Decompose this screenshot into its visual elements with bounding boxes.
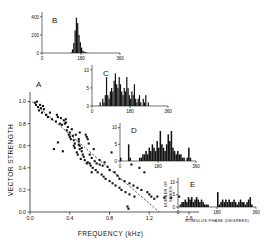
panel-a-data-point [91, 157, 93, 159]
panel-e-bar [191, 197, 193, 207]
panel-a-data-point [34, 102, 36, 104]
panel-c-x-ticklabel: 360 [164, 109, 172, 114]
panel-d-bar [130, 158, 132, 161]
panel-d-bar [166, 144, 168, 161]
panel-a-data-point [150, 196, 152, 198]
panel-a-data-point [91, 171, 93, 173]
panel-b-bar [72, 49, 73, 53]
panel-a-data-point [89, 162, 91, 164]
panel-a-data-point [56, 114, 58, 116]
panel-c-label: C [103, 69, 109, 78]
panel-a-data-point [104, 161, 106, 163]
panel-c-bar [133, 95, 134, 106]
panel-a-data-point [109, 169, 111, 171]
panel-a-data-point [57, 141, 59, 143]
panel-a-data-point [95, 169, 97, 171]
panel-a-data-point [61, 124, 63, 126]
panel-a-data-point [103, 176, 105, 178]
panel-d-bar [175, 154, 177, 161]
panel-e-bar [194, 200, 196, 207]
panel-e-bar [241, 202, 243, 207]
panel-c-bar [126, 77, 127, 106]
panel-d-bar [182, 158, 184, 161]
panel-a-data-point [79, 131, 81, 133]
panel-a-data-point [138, 167, 140, 169]
panel-a-data-point [65, 122, 67, 124]
panel-a-data-point [40, 107, 42, 109]
panel-a-data-point [133, 196, 135, 198]
panel-a-data-point [116, 175, 118, 177]
panel-a-x-ticklabel: 0.4 [66, 215, 73, 221]
panel-c-bar [129, 95, 130, 106]
panel-a-data-point [78, 138, 80, 140]
panel-a-data-point [107, 166, 109, 168]
panel-d-bar [142, 154, 144, 161]
panel-c-bar [110, 92, 111, 106]
panel-a-data-point [101, 173, 103, 175]
panel-a-data-point [136, 187, 138, 189]
panel-a-data-point [66, 129, 68, 131]
panel-c-bar [114, 81, 115, 106]
panel-a-data-point [178, 196, 180, 198]
panel-c-bar [111, 88, 112, 106]
panel-d-bar [155, 151, 157, 161]
panel-a-data-point [83, 156, 85, 158]
panel-a-data-point [79, 145, 81, 147]
panel-e-bar [246, 202, 248, 207]
panel-a-data-point [55, 120, 57, 122]
panel-c-x-ticklabel: 180 [126, 109, 134, 114]
panel-a-data-point [120, 189, 122, 191]
panel-e-bar [188, 197, 190, 207]
panel-d-x-ticklabel: 180 [154, 164, 162, 169]
panel-e-bar [225, 200, 227, 207]
panel-c-bar [139, 95, 140, 106]
panel-a-data-point [43, 108, 45, 110]
panel-d-x-ticklabel: 0 [119, 164, 122, 169]
panel-a-data-point [79, 148, 81, 150]
panel-e-bar [189, 200, 191, 207]
panel-d-bar [144, 154, 146, 161]
panel-e-bar [204, 205, 206, 207]
panel-c-bar [119, 77, 120, 106]
panel-c-bar [106, 77, 107, 106]
panel-a-data-point [124, 191, 126, 193]
panel-d-bar [168, 134, 170, 161]
panel-a-data-point [140, 189, 142, 191]
panel-c-bar [131, 92, 132, 106]
panel-e-bar [193, 202, 195, 207]
panel-a-data-point [89, 154, 91, 156]
panel-d-bar [141, 158, 143, 161]
panel-e-bar [222, 200, 224, 207]
panel-a-data-point [114, 184, 116, 186]
panel-c-y-ticklabel: 5 [86, 86, 89, 91]
panel-e-bar [183, 202, 185, 207]
panel-d-label: D [131, 126, 137, 135]
panel-a-data-point [51, 118, 53, 120]
panel-e-bar [181, 202, 183, 207]
panel-c-bar [136, 102, 137, 106]
panel-b-label: B [52, 16, 57, 25]
panel-d-bar [147, 154, 149, 161]
panel-a-data-point [109, 180, 111, 182]
panel-b-bar [77, 23, 78, 53]
panel-d-bar [158, 148, 160, 161]
panel-a-data-point [78, 140, 80, 142]
panel-d-y-ticklabel: 10 [112, 125, 118, 130]
panel-a-data-point [130, 163, 132, 165]
panel-e-y-ticklabel: 0 [172, 205, 175, 210]
panel-e-y-axis-label-2: SPIKES [168, 186, 173, 202]
panel-a-data-point [73, 139, 75, 141]
panel-e-bar [220, 202, 222, 207]
panel-b-x-ticklabel: 360 [116, 56, 124, 61]
panel-c-bar [148, 102, 149, 106]
panel-c-bar [144, 102, 145, 106]
panel-a-data-point [81, 150, 83, 152]
panel-a-data-point [74, 147, 76, 149]
panel-a-data-point [105, 178, 107, 180]
panel-e-y-ticklabel: 10 [170, 180, 176, 185]
panel-a-data-point [62, 150, 64, 152]
panel-a-data-point [70, 138, 72, 140]
panel-a-data-point [69, 136, 71, 138]
panel-a-data-point [102, 165, 104, 167]
panel-d-y-ticklabel: 5 [114, 142, 117, 147]
